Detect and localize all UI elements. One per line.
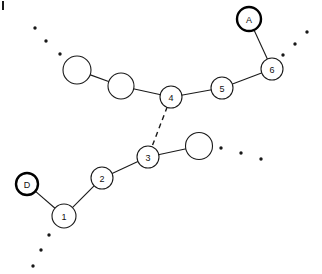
speck-dot	[259, 157, 262, 160]
speck-dot	[239, 151, 242, 154]
node-circle-1[interactable]	[52, 204, 76, 228]
edge-n2-n1	[72, 185, 94, 207]
speck-dot	[58, 52, 61, 55]
speck-dot	[305, 30, 308, 33]
node-circle-4[interactable]	[160, 86, 182, 108]
node-circle-u2[interactable]	[63, 56, 91, 84]
edge-layer	[35, 29, 268, 208]
node-5[interactable]: 5	[211, 77, 233, 99]
node-circle-D[interactable]	[16, 173, 38, 195]
corner-tick-mark	[2, 1, 4, 10]
node-circle-3[interactable]	[137, 146, 159, 168]
edge-A-n6	[254, 29, 268, 59]
node-layer: A654321D	[16, 7, 283, 228]
edge-n1-D	[35, 191, 55, 209]
graph-canvas: A654321D	[0, 0, 322, 274]
node-u3[interactable]	[186, 133, 213, 160]
node-circle-5[interactable]	[211, 77, 233, 99]
edge-n3-n2	[112, 161, 139, 173]
node-u1[interactable]	[108, 73, 134, 99]
node-circle-6[interactable]	[261, 58, 283, 80]
speck-dot	[219, 146, 222, 149]
speck-dot	[39, 248, 42, 251]
speck-dot	[44, 39, 47, 42]
node-4[interactable]: 4	[160, 86, 182, 108]
node-D[interactable]: D	[16, 173, 38, 195]
node-A[interactable]: A	[237, 7, 261, 31]
edge-n5-n4	[181, 90, 211, 95]
speck-dot	[47, 233, 50, 236]
node-circle-u3[interactable]	[186, 133, 213, 160]
speck-dot	[293, 42, 296, 45]
edge-n3-u3	[158, 149, 186, 155]
node-circle-2[interactable]	[91, 167, 113, 189]
node-6[interactable]: 6	[261, 58, 283, 80]
edge-n6-n5	[232, 73, 262, 85]
node-circle-u1[interactable]	[108, 73, 134, 99]
speck-dot	[33, 26, 36, 29]
node-circle-A[interactable]	[237, 7, 261, 31]
diagram-root: A654321D	[0, 0, 322, 274]
node-1[interactable]: 1	[52, 204, 76, 228]
node-u2[interactable]	[63, 56, 91, 84]
speck-dot	[281, 53, 284, 56]
edge-n4-n3	[152, 107, 167, 147]
node-2[interactable]: 2	[91, 167, 113, 189]
node-3[interactable]: 3	[137, 146, 159, 168]
edge-u1-u2	[90, 75, 110, 82]
edge-n4-u1	[133, 89, 161, 95]
corner-tick-layer	[2, 1, 4, 10]
speck-dot	[31, 264, 34, 267]
